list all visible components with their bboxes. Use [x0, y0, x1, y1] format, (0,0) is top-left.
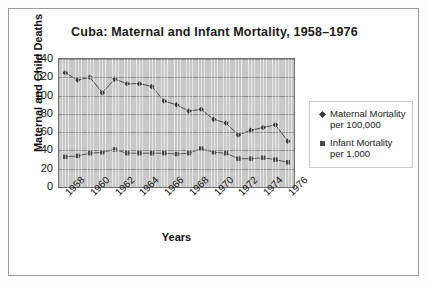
y-axis-tick: 80 [41, 107, 53, 119]
diamond-marker-icon [314, 108, 330, 117]
gridline-vertical [65, 59, 66, 187]
gridline-vertical [99, 59, 100, 187]
chart-page: Cuba: Maternal and Infant Mortality, 195… [0, 0, 429, 287]
gridline-vertical [167, 59, 168, 187]
square-marker-icon [314, 137, 330, 146]
gridline-vertical [90, 59, 91, 187]
gridline-vertical [81, 59, 82, 187]
gridline-vertical [248, 59, 249, 187]
gridline-vertical [102, 59, 103, 187]
x-axis-title: Years [58, 231, 295, 243]
gridline-vertical [235, 59, 236, 187]
gridline-vertical [118, 59, 119, 187]
y-axis-tick: 40 [41, 143, 53, 155]
gridline-vertical [180, 59, 181, 187]
gridline-vertical [186, 59, 187, 187]
gridline-vertical [75, 59, 76, 187]
plot-area [58, 58, 295, 188]
gridline-vertical [142, 59, 143, 187]
gridline-vertical [149, 59, 150, 187]
y-axis-tick: 60 [41, 125, 53, 137]
gridline-vertical [223, 59, 224, 187]
gridline-vertical [201, 59, 202, 187]
gridline-vertical [155, 59, 156, 187]
gridline-vertical [136, 59, 137, 187]
gridline-vertical [130, 59, 131, 187]
gridline-vertical [62, 59, 63, 187]
gridline-vertical [87, 59, 88, 187]
gridline-vertical [174, 59, 175, 187]
y-axis-tick: 0 [47, 180, 53, 192]
gridline-vertical [192, 59, 193, 187]
gridline-vertical [93, 59, 94, 187]
y-axis-tick-labels: 140120100806040200 [9, 52, 58, 194]
gridline-vertical [251, 59, 252, 187]
gridline-vertical [291, 59, 292, 187]
gridline-vertical [124, 59, 125, 187]
gridline-vertical [275, 59, 276, 187]
legend-item-label: Maternal Mortality per 100,000 [330, 108, 408, 130]
y-axis-tick: 120 [35, 70, 53, 82]
gridline-vertical [189, 59, 190, 187]
gridline-vertical [238, 59, 239, 187]
gridline-vertical [260, 59, 261, 187]
legend-item: Maternal Mortality per 100,000 [314, 108, 408, 130]
gridline-vertical [204, 59, 205, 187]
gridline-vertical [254, 59, 255, 187]
x-axis-tick-labels: 1958196019621964196619681970197219741976 [58, 190, 295, 230]
gridline-vertical [217, 59, 218, 187]
y-axis-tick: 100 [35, 89, 53, 101]
gridline-vertical [241, 59, 242, 187]
gridline-vertical [127, 59, 128, 187]
gridline-vertical [214, 59, 215, 187]
gridline-vertical [115, 59, 116, 187]
gridline-vertical [152, 59, 153, 187]
y-axis-tick: 140 [35, 52, 53, 64]
gridline-vertical [198, 59, 199, 187]
y-axis-tick: 20 [41, 162, 53, 174]
gridline-vertical [78, 59, 79, 187]
gridline-vertical [177, 59, 178, 187]
gridline-vertical [285, 59, 286, 187]
chart-legend: Maternal Mortality per 100,000 Infant Mo… [309, 101, 413, 168]
gridline-vertical [278, 59, 279, 187]
gridline-vertical [105, 59, 106, 187]
gridline-vertical [164, 59, 165, 187]
gridline-vertical [266, 59, 267, 187]
gridline-vertical [263, 59, 264, 187]
gridline-vertical [272, 59, 273, 187]
gridline-vertical [68, 59, 69, 187]
gridline-vertical [226, 59, 227, 187]
gridline-vertical [112, 59, 113, 187]
gridline-vertical [211, 59, 212, 187]
gridline-vertical [229, 59, 230, 187]
legend-item: Infant Mortality per 1,000 [314, 137, 408, 159]
gridline-vertical [288, 59, 289, 187]
chart-frame: Cuba: Maternal and Infant Mortality, 195… [8, 8, 419, 276]
legend-item-label: Infant Mortality per 1,000 [330, 137, 408, 159]
gridline-vertical [139, 59, 140, 187]
chart-title: Cuba: Maternal and Infant Mortality, 195… [9, 25, 420, 39]
gridline-vertical [161, 59, 162, 187]
